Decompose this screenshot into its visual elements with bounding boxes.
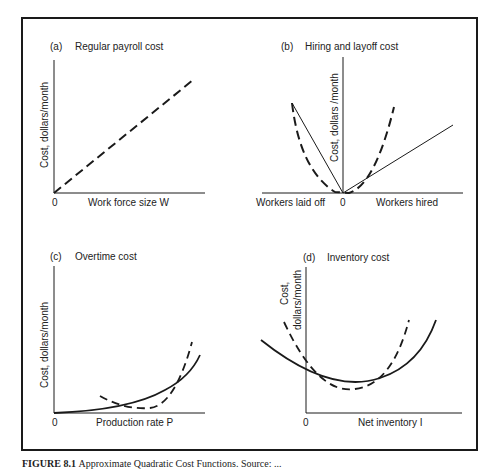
panel-d-origin: 0 <box>303 417 309 428</box>
panel-c-solid-curve <box>54 355 200 413</box>
panel-a-dashed-line <box>54 80 193 193</box>
panel-c-ylabel: Cost, dollars/month <box>39 302 50 388</box>
panel-d-letter: (d) <box>303 252 315 263</box>
panel-b-origin: 0 <box>340 197 346 208</box>
panel-a-letter: (a) <box>50 41 62 52</box>
panel-b-xlabel-left: Workers laid off <box>256 197 325 208</box>
panel-a-title: Regular payroll cost <box>75 41 164 52</box>
panel-b-title: Hiring and layoff cost <box>305 41 398 52</box>
panel-c: (c) Overtime cost Cost, dollars/month 0 … <box>39 251 205 428</box>
panel-d-ylabel-line2: dollars/month <box>292 270 303 330</box>
panel-b-ylabel: Cost, dollars /month <box>329 73 340 162</box>
panel-d-title: Inventory cost <box>327 252 389 263</box>
panel-b-solid-line <box>292 103 453 193</box>
panel-c-xlabel: Production rate P <box>96 417 174 428</box>
panel-d-ylabel-line1: Cost, <box>279 282 290 305</box>
panel-a: (a) Regular payroll cost Cost, dollars/m… <box>39 41 205 208</box>
figure-caption: FIGURE 8.1 Approximate Quadratic Cost Fu… <box>22 458 281 469</box>
panel-b: (b) Hiring and layoff cost Cost, dollars… <box>256 41 463 208</box>
panel-c-title: Overtime cost <box>75 251 137 262</box>
panel-d: (d) Inventory cost Cost, dollars/month 0… <box>261 252 462 428</box>
panel-a-origin: 0 <box>52 197 58 208</box>
figure-caption-text: Approximate Quadratic Cost Functions. So… <box>78 458 281 469</box>
figure-caption-label: FIGURE 8.1 <box>22 458 76 469</box>
panel-c-origin: 0 <box>52 417 58 428</box>
panel-d-xlabel: Net inventory I <box>358 417 422 428</box>
panel-b-letter: (b) <box>281 41 293 52</box>
panel-c-letter: (c) <box>50 251 62 262</box>
panel-a-ylabel: Cost, dollars/month <box>39 82 50 168</box>
panel-b-xlabel-right: Workers hired <box>376 197 438 208</box>
panel-a-xlabel: Work force size W <box>88 197 169 208</box>
